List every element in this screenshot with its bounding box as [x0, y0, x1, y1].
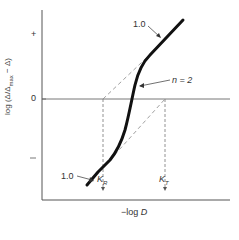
n-leader — [140, 80, 170, 86]
x-axis-label-var: D — [141, 207, 148, 217]
y-axis-label-tail: − Δ) — [3, 58, 12, 75]
n-arrow-icon — [139, 83, 144, 88]
kr-label: KR — [97, 175, 107, 186]
kr-arrow-icon — [101, 187, 105, 191]
lower-slope-label: 1.0 — [61, 172, 74, 181]
zero-tick-label: 0 — [31, 94, 36, 103]
kt-label-sub: T — [165, 180, 169, 186]
upper-slope-label: 1.0 — [133, 20, 146, 29]
kr-label-sub: R — [103, 180, 107, 186]
hill-coefficient-label: n = 2 — [172, 76, 192, 85]
plus-tick-label: + — [31, 30, 36, 39]
y-axis-label-sub: max — [8, 75, 14, 86]
x-axis-label-main: −log — [121, 207, 141, 217]
x-axis-label: −log D — [121, 208, 147, 217]
y-axis-label-main: log (Δ/Δ — [3, 87, 12, 115]
kt-arrow-icon — [163, 187, 167, 191]
lower-asymptote — [110, 99, 165, 160]
y-axis-label: log (Δ/Δmax − Δ) — [3, 58, 14, 115]
hill-curve — [87, 20, 183, 185]
kt-label: KT — [159, 175, 169, 186]
